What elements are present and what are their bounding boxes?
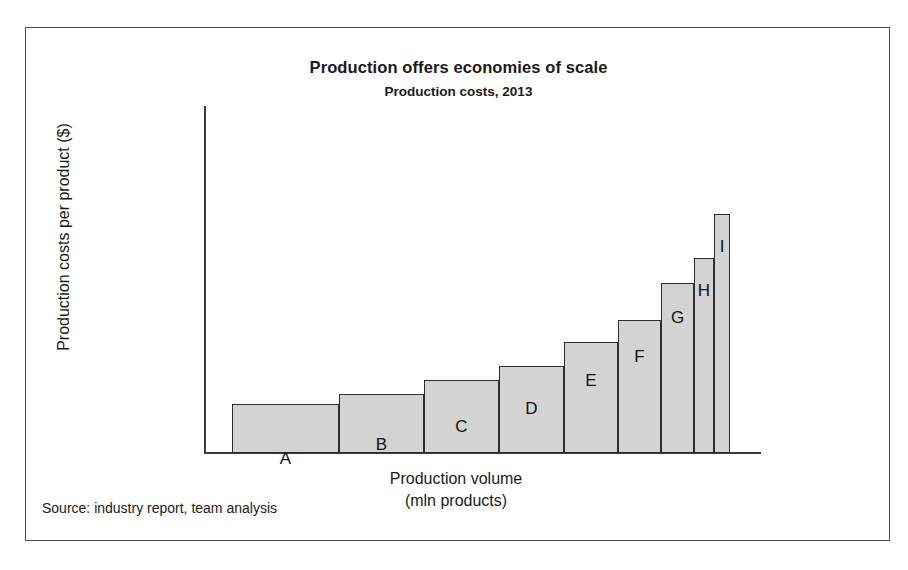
bar-label-f: F: [619, 347, 660, 367]
bar-label-g: G: [662, 308, 693, 328]
bar-label-h: H: [695, 281, 713, 301]
bar-f: F: [618, 320, 661, 453]
y-axis-line: [204, 106, 206, 453]
bar-label-b: B: [340, 435, 423, 455]
bar-label-d: D: [500, 399, 563, 419]
plot-area: ABCDEFGHI: [26, 28, 891, 542]
bar-c: C: [424, 380, 499, 453]
bar-label-a: A: [233, 449, 338, 469]
x-axis-label-line2: (mln products): [296, 490, 616, 512]
bar-label-c: C: [425, 417, 498, 437]
x-axis-label: Production volume (mln products): [296, 468, 616, 512]
chart-frame: Production offers economies of scale Pro…: [25, 27, 890, 541]
slide-canvas: Production offers economies of scale Pro…: [0, 0, 908, 570]
bar-b: B: [339, 394, 424, 453]
x-axis-label-line1: Production volume: [296, 468, 616, 490]
bar-i: I: [714, 214, 730, 453]
bar-d: D: [499, 366, 564, 453]
bar-a: A: [232, 404, 339, 453]
bar-e: E: [564, 342, 618, 453]
bar-h: H: [694, 258, 714, 453]
bar-label-i: I: [715, 237, 729, 257]
source-note: Source: industry report, team analysis: [42, 500, 277, 516]
bar-g: G: [661, 283, 694, 453]
bar-label-e: E: [565, 371, 617, 391]
